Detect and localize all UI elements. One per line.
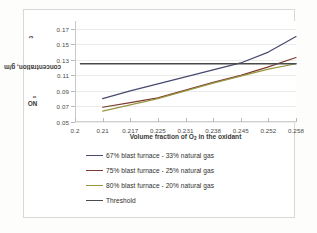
legend-swatch — [86, 170, 103, 171]
y-axis-title-superscript: 3 — [29, 36, 34, 39]
legend-item[interactable]: 80% blast furnace - 20% natural gas — [86, 178, 286, 193]
series-line — [103, 64, 296, 111]
y-axis-title: NOx concentration, g/m3 — [28, 21, 38, 122]
y-axis-tick — [71, 122, 75, 123]
y-tick-label: 0.07 — [57, 103, 69, 110]
legend-label: 80% blast furnace - 20% natural gas — [106, 182, 214, 189]
gridline — [75, 122, 296, 123]
legend-item[interactable]: 75% blast furnace - 25% natural gas — [86, 163, 286, 178]
y-tick-label: 0.17 — [57, 25, 69, 32]
x-axis-title-text: Volume fraction of O — [130, 133, 194, 140]
legend-label: 67% blast furnace - 33% natural gas — [106, 152, 214, 159]
chart-figure: NOx concentration, g/m3 0.050.070.090.11… — [0, 0, 317, 233]
y-axis-title-prefix: NO — [28, 99, 38, 106]
y-tick-label: 0.15 — [57, 41, 69, 48]
legend-item[interactable]: Threshold — [86, 193, 286, 208]
legend-label: 75% blast furnace - 25% natural gas — [106, 167, 214, 174]
y-tick-label: 0.13 — [57, 56, 69, 63]
x-axis-title: Volume fraction of O2 in the oxidant — [75, 133, 296, 141]
x-axis-title-tail: in the oxidant — [197, 133, 242, 140]
y-axis-title-tail: concentration, g/m — [4, 63, 61, 70]
y-tick-label: 0.05 — [57, 119, 69, 126]
series-line — [103, 58, 296, 108]
series-lines — [75, 21, 296, 122]
legend-swatch — [86, 200, 103, 201]
legend-swatch — [86, 185, 103, 186]
y-axis-title-subscript: x — [32, 95, 37, 98]
legend-swatch — [86, 155, 103, 156]
legend-label: Threshold — [106, 197, 136, 204]
y-tick-label: 0.11 — [57, 72, 69, 79]
legend-item[interactable]: 67% blast furnace - 33% natural gas — [86, 148, 286, 163]
y-tick-label: 0.09 — [57, 87, 69, 94]
x-axis-tick — [296, 118, 297, 122]
chart-legend: 67% blast furnace - 33% natural gas75% b… — [86, 148, 286, 208]
plot-area: 0.050.070.090.110.130.150.17 0.20.210.21… — [75, 21, 296, 122]
